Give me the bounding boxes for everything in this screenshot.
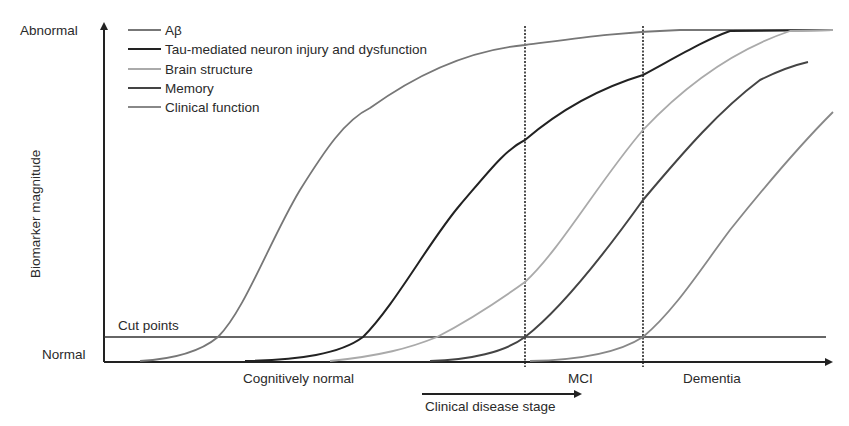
- biomarker-chart: Abnormal Normal Biomarker magnitude Cut …: [0, 0, 849, 426]
- stage-label-dementia: Dementia: [683, 371, 741, 386]
- x-axis-title: Clinical disease stage: [425, 399, 556, 414]
- y-tick-abnormal: Abnormal: [20, 23, 78, 38]
- stage-label-cognitively-normal: Cognitively normal: [243, 371, 354, 386]
- curve-memory: [430, 62, 808, 361]
- stage-label-mci: MCI: [568, 371, 593, 386]
- y-axis-title: Biomarker magnitude: [28, 150, 43, 278]
- legend-label-abeta: Aβ: [165, 23, 182, 38]
- y-tick-normal: Normal: [42, 347, 86, 362]
- legend-label-memory: Memory: [165, 81, 214, 96]
- cut-points-label: Cut points: [118, 318, 179, 333]
- legend-label-clinical-function: Clinical function: [165, 100, 260, 115]
- legend: Aβ Tau-mediated neuron injury and dysfun…: [128, 23, 427, 115]
- legend-label-brain-structure: Brain structure: [165, 62, 253, 77]
- legend-label-tau: Tau-mediated neuron injury and dysfuncti…: [165, 42, 427, 57]
- curve-abeta: [140, 30, 833, 361]
- curve-tau: [245, 30, 833, 361]
- curve-clinical-function: [530, 112, 833, 361]
